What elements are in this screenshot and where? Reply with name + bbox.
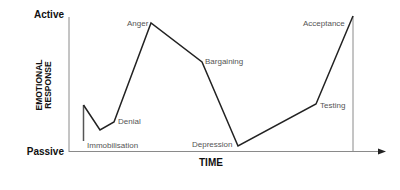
x-axis-arrow-icon xyxy=(378,149,386,155)
stage-label-bargaining: Bargaining xyxy=(205,57,243,66)
stage-label-immobilisation: Immobilisation xyxy=(87,141,138,150)
stage-label-denial: Denial xyxy=(118,117,141,126)
stage-label-acceptance: Acceptance xyxy=(303,19,345,28)
stage-label-anger: Anger xyxy=(127,19,149,28)
change-curve-chart: Active Passive EMOTIONAL RESPONSE TIME I… xyxy=(0,0,400,190)
y-axis-label-line2: RESPONSE xyxy=(43,61,53,109)
change-curve-line xyxy=(84,16,354,146)
stage-label-depression: Depression xyxy=(192,140,232,149)
stage-label-testing: Testing xyxy=(320,101,345,110)
y-tick-active: Active xyxy=(34,9,64,20)
y-tick-passive: Passive xyxy=(27,146,65,157)
x-axis-label: TIME xyxy=(199,157,223,168)
